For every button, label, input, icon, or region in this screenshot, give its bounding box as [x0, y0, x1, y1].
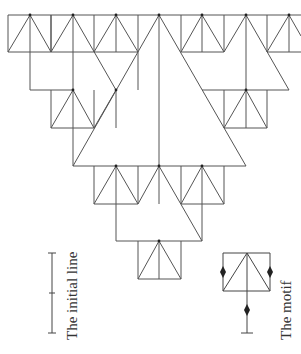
initial-line-graphic	[48, 253, 56, 333]
fractal-diagram	[0, 0, 301, 354]
fractal-lines	[8, 15, 301, 279]
motif-graphic	[220, 253, 273, 333]
initial-line-label: The initial line	[64, 252, 81, 340]
motif-label: The motif	[278, 280, 295, 340]
